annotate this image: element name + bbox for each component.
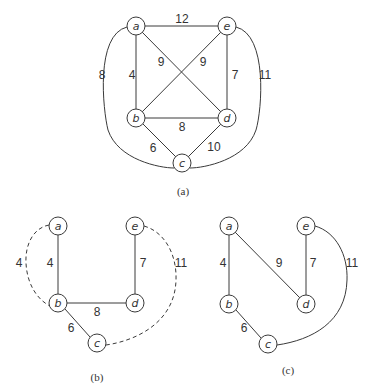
edge-a-d [235,232,300,298]
node-label-b: b [133,112,140,125]
weight-d-c: 10 [207,140,221,154]
node-label-d: d [303,298,311,311]
weight-b-c: 6 [150,141,157,155]
caption-c: (c) [282,364,295,377]
weight-a-b: 4 [129,68,136,82]
node-e: e [126,217,144,235]
graph-b: 4 4 7 11 8 6 a e b d c (b) [16,217,188,384]
graph-c: 4 9 7 11 6 a e b d c (c) [220,217,359,377]
node-label-a: a [55,220,62,233]
node-d: d [218,109,236,127]
caption-b: (b) [91,371,104,384]
weight-b-c: 6 [68,321,75,335]
weight-a-d: 9 [276,256,283,270]
edge-e-c-dashed [106,226,176,345]
node-label-e: e [132,220,139,233]
node-a: a [127,17,145,35]
node-c: c [259,335,277,353]
weight-e-d: 7 [232,68,239,82]
edge-b-c [143,124,176,157]
weight-a-b-dashed: 4 [16,256,23,270]
node-d: d [126,294,144,312]
weight-e-d: 7 [140,256,147,270]
node-b: b [127,109,145,127]
node-a: a [49,217,67,235]
node-label-a: a [226,220,233,233]
node-label-a: a [133,20,140,33]
weight-b-d: 8 [179,120,186,134]
node-label-e: e [303,220,310,233]
weight-e-c: 11 [346,256,359,270]
figure-canvas: 12 4 9 9 7 8 6 10 8 11 a e b d c (a) [0,0,370,389]
weight-a-b: 4 [220,256,227,270]
weight-e-c: 11 [259,68,272,82]
node-e: e [297,217,315,235]
node-label-d: d [132,297,140,310]
node-a: a [220,217,238,235]
caption-a: (a) [177,185,190,198]
weight-a-d: 9 [158,55,165,69]
edge-e-c-curved [190,27,261,168]
weight-b-c: 6 [241,321,248,335]
node-label-c: c [94,337,100,350]
weight-a-c: 8 [99,68,106,82]
edge-a-c-curved [103,27,174,168]
weight-a-b: 4 [47,256,54,270]
node-d: d [297,295,315,313]
node-b: b [49,294,67,312]
weight-a-e: 12 [175,12,189,26]
node-label-e: e [224,20,231,33]
node-c: c [173,154,191,172]
node-label-b: b [226,298,233,311]
node-b: b [220,295,238,313]
weight-e-d: 7 [310,256,317,270]
weight-e-b: 9 [200,55,207,69]
node-c: c [88,334,106,352]
node-label-c: c [179,157,185,170]
node-label-c: c [265,338,271,351]
node-label-d: d [224,112,232,125]
weight-e-c-dashed: 11 [175,256,188,270]
weight-b-d: 8 [94,305,101,319]
node-e: e [218,17,236,35]
node-label-b: b [55,297,62,310]
graph-a: 12 4 9 9 7 8 6 10 8 11 a e b d c (a) [99,12,272,198]
